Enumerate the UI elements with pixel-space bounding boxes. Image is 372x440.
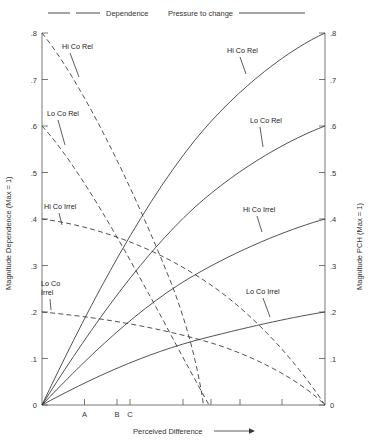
right-tick-label-4: .4: [330, 215, 336, 224]
label-pch-hi-co-rel: Hi Co Rel: [227, 46, 258, 74]
label-pch-lo-co-irrel-text: Lo Co Irrel: [246, 287, 280, 296]
label-dep-hi-co-rel: Hi Co Rel: [62, 42, 93, 77]
bottom-axis-ticks: A B C: [82, 399, 282, 419]
dependence-curves: [42, 33, 325, 405]
label-dep-lo-co-rel-leader: [58, 120, 65, 145]
left-tick-label-5: .5: [31, 169, 37, 178]
label-dep-lo-co-irrel-leader: [50, 299, 51, 310]
bottom-tick-label-a: A: [82, 410, 87, 419]
left-tick-label-2: .2: [31, 308, 37, 317]
right-tick-label-1: .1: [330, 355, 336, 364]
right-tick-label-5: .5: [330, 169, 336, 178]
dependence-curve-hi-co-irrel: [42, 219, 325, 405]
dependence-curve-hi-co-rel: [42, 33, 203, 405]
left-tick-label-0: 0: [33, 401, 37, 410]
right-tick-label-8: .8: [330, 29, 336, 38]
legend: Dependence Pressure to change: [48, 9, 305, 18]
chart-svg: Dependence Pressure to change 0 .1 .2 .3…: [0, 0, 372, 440]
bottom-tick-label-c: C: [127, 410, 133, 419]
label-pch-lo-co-irrel-leader: [263, 298, 270, 317]
right-tick-label-0: 0: [330, 401, 334, 410]
label-pch-hi-co-irrel-text: Hi Co Irrel: [243, 205, 276, 214]
left-tick-label-8: .8: [31, 29, 37, 38]
pressure-curve-labels: Hi Co Rel Lo Co Rel Hi Co Irrel Lo Co Ir…: [227, 46, 282, 317]
dependence-curve-labels: Hi Co Rel Lo Co Rel Hi Co Irrel Lo Co Ir…: [41, 42, 93, 310]
axes-frame: [42, 33, 325, 405]
x-axis-arrow-head: [249, 428, 255, 434]
label-pch-hi-co-rel-text: Hi Co Rel: [227, 46, 258, 55]
right-tick-label-7: .7: [330, 76, 336, 85]
chart-figure: Dependence Pressure to change 0 .1 .2 .3…: [0, 0, 372, 440]
right-tick-label-6: .6: [330, 122, 336, 131]
label-dep-lo-co-irrel-line1: Lo Co: [41, 279, 60, 288]
bottom-axis-title: Perceived Difference: [133, 427, 202, 436]
pressure-curve-lo-co-rel: [42, 126, 325, 405]
pressure-curves: [42, 33, 325, 405]
label-dep-hi-co-irrel-leader: [59, 213, 62, 225]
right-axis-ticks: 0 .1 .2 .3 .4 .5 .6 .7 .8: [319, 29, 336, 410]
label-dep-lo-co-irrel-line2: Irrel: [41, 288, 54, 297]
left-tick-label-6: .6: [31, 122, 37, 131]
label-pch-lo-co-irrel: Lo Co Irrel: [246, 287, 280, 317]
right-tick-label-2: .2: [330, 308, 336, 317]
bottom-tick-label-b: B: [114, 410, 119, 419]
label-pch-lo-co-rel: Lo Co Rel: [250, 116, 282, 147]
legend-item-pressure-to-change: Pressure to change: [168, 9, 305, 18]
left-axis-title: Magnitude Dependence (Max = 1): [4, 176, 13, 290]
legend-item-dependence: Dependence: [48, 9, 149, 18]
right-axis-title: Magnitude PCH (Max = 1): [355, 203, 364, 290]
label-dep-hi-co-rel-leader: [70, 53, 79, 77]
label-dep-hi-co-rel-text: Hi Co Rel: [62, 42, 93, 51]
label-pch-lo-co-rel-text: Lo Co Rel: [250, 116, 282, 125]
pressure-curve-hi-co-irrel: [42, 219, 325, 405]
left-tick-label-4: .4: [31, 215, 37, 224]
dependence-curve-lo-co-rel: [42, 126, 209, 405]
label-pch-hi-co-irrel: Hi Co Irrel: [243, 205, 276, 232]
label-dep-hi-co-irrel-text: Hi Co Irrel: [44, 202, 77, 211]
label-dep-lo-co-rel-text: Lo Co Rel: [47, 109, 79, 118]
label-pch-hi-co-rel-leader: [240, 57, 246, 74]
bottom-axis-title-group: Perceived Difference: [133, 427, 255, 436]
label-pch-hi-co-irrel-leader: [257, 216, 262, 232]
label-pch-lo-co-rel-leader: [260, 127, 263, 147]
label-dep-lo-co-irrel: Lo Co Irrel: [41, 279, 60, 310]
legend-pressure-label: Pressure to change: [168, 9, 233, 18]
pressure-curve-hi-co-rel: [42, 33, 325, 405]
label-dep-lo-co-rel: Lo Co Rel: [47, 109, 79, 145]
left-tick-label-3: .3: [31, 262, 37, 271]
left-tick-label-1: .1: [31, 355, 37, 364]
left-tick-label-7: .7: [31, 76, 37, 85]
legend-dependence-label: Dependence: [106, 9, 149, 18]
right-tick-label-3: .3: [330, 262, 336, 271]
